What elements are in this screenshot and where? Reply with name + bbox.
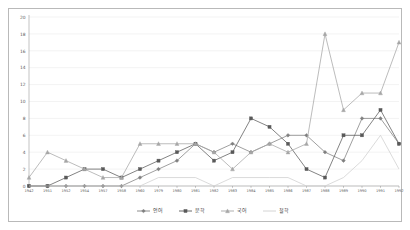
x-tick-label: 1987 [302,189,311,193]
data-point-marker [268,125,271,128]
x-tick-label: 1981 [191,189,200,193]
data-point-marker [286,142,289,145]
data-point-marker [231,142,235,146]
x-tick-label: 1986 [283,189,293,193]
y-tick-label: 6 [23,133,26,138]
legend-item-철학[interactable]: 철학 [263,207,289,214]
data-point-marker [342,134,345,137]
x-tick-label: 1951 [43,189,52,193]
chart-canvas: 02468101214161820 1942195119521954195719… [0,0,410,230]
series-line [29,34,399,178]
data-point-marker [342,159,346,163]
x-tick-label: 1960 [135,189,145,193]
x-tick-label: 1985 [265,189,274,193]
chart-legend: 언어문학국어철학 [137,207,289,214]
data-point-marker [305,142,309,146]
data-point-marker [360,134,363,137]
legend-label: 국어 [237,207,247,214]
data-point-marker [397,142,400,145]
x-tick-label: 1992 [394,189,403,193]
x-axis: 1942195119521954195719581960197919801981… [24,186,403,193]
legend-item-문학[interactable]: 문학 [179,207,205,214]
data-point-marker [175,151,178,154]
y-tick-label: 0 [23,184,26,189]
x-tick-label: 1942 [24,189,33,193]
legend-label: 문학 [195,207,205,214]
data-point-marker [138,176,142,180]
data-point-marker [64,176,67,179]
x-tick-label: 1952 [61,189,70,193]
x-tick-label: 1979 [154,189,164,193]
x-tick-label: 1990 [357,189,367,193]
y-tick-label: 14 [20,65,26,70]
data-point-marker [286,133,290,137]
y-tick-label: 4 [23,150,26,155]
data-point-marker [231,151,234,154]
x-tick-label: 1982 [209,189,218,193]
series-line [29,110,399,186]
line-chart: 02468101214161820 1942195119521954195719… [0,0,410,230]
data-point-marker [157,167,161,171]
x-tick-label: 1958 [117,189,127,193]
legend-label: 언어 [153,207,163,214]
x-tick-label: 1984 [246,189,256,193]
data-point-marker [142,209,146,213]
x-tick-label: 1988 [320,189,330,193]
series-lines [27,32,401,188]
data-point-marker [212,159,215,162]
data-point-marker [379,108,382,111]
y-axis: 02468101214161820 [20,15,29,189]
legend-item-국어[interactable]: 국어 [221,207,247,214]
x-tick-label: 1980 [172,189,182,193]
x-tick-label: 1991 [376,189,385,193]
data-point-marker [184,209,187,212]
y-tick-label: 16 [20,49,26,54]
x-tick-label: 1989 [339,189,349,193]
data-point-marker [305,168,308,171]
data-point-marker [64,159,68,163]
data-point-marker [138,168,141,171]
x-tick-label: 1954 [80,189,90,193]
data-point-marker [360,117,364,121]
y-tick-label: 2 [23,167,26,172]
y-tick-label: 12 [20,82,26,87]
y-tick-label: 8 [23,116,26,121]
y-tick-label: 20 [20,15,26,20]
x-tick-label: 1983 [228,189,237,193]
data-point-marker [249,117,252,120]
x-tick-label: 1957 [98,189,107,193]
data-point-marker [157,159,160,162]
data-point-marker [323,176,326,179]
series-문학 [27,108,400,187]
data-point-marker [101,168,104,171]
legend-item-언어[interactable]: 언어 [137,207,163,214]
data-point-marker [397,40,401,44]
y-tick-label: 18 [20,32,26,37]
legend-label: 철학 [279,207,289,214]
y-tick-label: 10 [20,99,26,104]
